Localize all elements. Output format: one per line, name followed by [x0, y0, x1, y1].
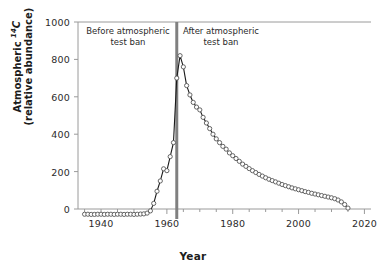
- annotation-before-line1: Before atmospheric: [85, 26, 171, 37]
- chart-axes: [78, 22, 371, 209]
- x-axis-title: Year: [0, 250, 386, 262]
- y-axis-ticks: [74, 22, 78, 209]
- annotation-before-line2: test ban: [85, 37, 171, 48]
- chart-data-point: [214, 137, 218, 141]
- ytick-label-600: 600: [38, 91, 70, 102]
- chart-data-point: [178, 54, 182, 58]
- ytick-label-0: 0: [38, 204, 70, 215]
- chart-data-point: [204, 121, 208, 125]
- chart-data-point: [158, 179, 162, 183]
- xtick-label-1960: 1960: [154, 218, 179, 229]
- chart-data-point: [188, 93, 192, 97]
- chart-data-point: [201, 115, 205, 119]
- chart-data-point: [185, 83, 189, 87]
- y-axis-title-line1: Atmospheric 14C: [8, 0, 23, 152]
- xtick-label-1940: 1940: [89, 218, 114, 229]
- chart-data-point: [224, 147, 228, 151]
- ytick-label-400: 400: [38, 129, 70, 140]
- annotation-after-line2: test ban: [176, 37, 266, 48]
- chart-figure: 0 200 400 600 800 1000 1940 1960 1980 20…: [0, 0, 386, 270]
- annotation-after-line1: After atmospheric: [176, 26, 266, 37]
- chart-data-point: [191, 100, 195, 104]
- annotation-before-test-ban: Before atmospheric test ban: [85, 26, 171, 48]
- y-axis-isotope-superscript: 14: [10, 28, 18, 38]
- ytick-label-800: 800: [38, 54, 70, 65]
- chart-data-point: [198, 108, 202, 112]
- ytick-label-1000: 1000: [38, 17, 70, 28]
- y-axis-isotope-label: 14C: [12, 21, 23, 38]
- chart-data-point: [211, 132, 215, 136]
- y-axis-title-line2: (relative abundance): [24, 0, 36, 152]
- chart-data-point: [152, 201, 156, 205]
- chart-data-point: [181, 65, 185, 69]
- y-axis-title-text: Atmospheric: [12, 38, 23, 113]
- y-axis-title: Atmospheric 14C (relative abundance): [8, 0, 35, 152]
- xtick-label-1980: 1980: [220, 218, 245, 229]
- chart-data-point: [168, 155, 172, 159]
- chart-data-point: [346, 206, 350, 210]
- chart-data-point: [155, 189, 159, 193]
- annotation-after-test-ban: After atmospheric test ban: [176, 26, 266, 48]
- chart-data-point: [165, 169, 169, 173]
- chart-data-point: [217, 141, 221, 145]
- ytick-label-200: 200: [38, 166, 70, 177]
- chart-render-group: [74, 22, 371, 219]
- xtick-label-2020: 2020: [352, 218, 377, 229]
- chart-series-atmospheric-c14: [82, 54, 350, 217]
- chart-data-point: [208, 126, 212, 130]
- chart-data-point: [343, 202, 347, 206]
- chart-data-point: [175, 76, 179, 80]
- chart-data-point: [148, 209, 152, 213]
- chart-data-point: [171, 141, 175, 145]
- xtick-label-2000: 2000: [286, 218, 311, 229]
